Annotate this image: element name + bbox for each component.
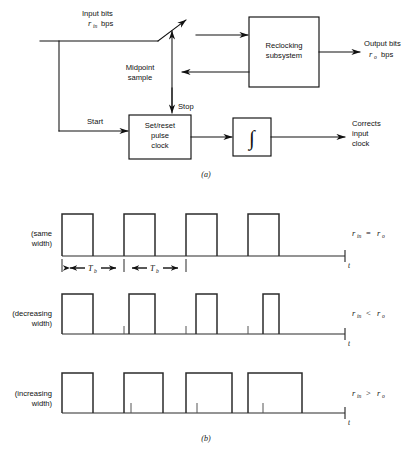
- corrects-input-clock-label: Corrects input clock: [352, 119, 381, 148]
- increasing-width-label-line1: (increasing: [15, 389, 52, 398]
- row1-rel-left-var: r: [352, 229, 356, 238]
- row1-pulse-3: [186, 214, 217, 256]
- row2-rel-right-sub: o: [382, 313, 385, 319]
- row3-rel-left-var: r: [352, 389, 356, 398]
- block-diagram-a: Input bits r in bps Start Reclocking sub…: [40, 9, 401, 179]
- row2-pulse-4: [263, 294, 279, 334]
- tb-label-2-sub: b: [156, 268, 159, 274]
- output-rate-unit: bps: [381, 50, 393, 59]
- row3-rel-op: >: [366, 389, 371, 398]
- row2-pulse-2: [129, 294, 155, 334]
- waveform-row-decreasing-width: (decreasing width) t r in < r o: [12, 294, 385, 348]
- row1-rel-left-sub: in: [357, 233, 362, 239]
- tb-label-1-sub: b: [94, 268, 97, 274]
- row3-pulse-1: [62, 373, 93, 413]
- reclocking-subsystem-line1: Reclocking: [265, 41, 302, 50]
- technical-figure: Input bits r in bps Start Reclocking sub…: [0, 0, 413, 450]
- row3-rel-right-sub: o: [382, 393, 385, 399]
- row3-pulse-4: [248, 373, 302, 413]
- midpoint-sample-label: Midpoint sample: [126, 63, 156, 82]
- row1-dimension-arrows: T b T b: [62, 259, 186, 274]
- row3-rel-left-sub: in: [357, 393, 362, 399]
- corrects-line1: Corrects: [352, 119, 381, 128]
- row1-rel-right-var: r: [377, 229, 381, 238]
- row2-pulse-1: [62, 294, 93, 334]
- same-width-label-line2: width): [31, 239, 53, 248]
- input-bits-label: Input bits r in bps: [82, 9, 113, 29]
- input-bits-label-line1: Input bits: [82, 9, 113, 18]
- row1-time-axis-label: t: [348, 261, 351, 270]
- corrects-line2: input: [352, 129, 369, 138]
- midpoint-sample-line2: sample: [128, 73, 152, 82]
- corrects-line3: clock: [352, 139, 370, 148]
- start-label: Start: [87, 117, 104, 126]
- row3-pulse-2: [124, 373, 163, 413]
- row1-pulse-1: [62, 214, 93, 256]
- row1-rel-right-sub: o: [382, 233, 385, 239]
- row2-rel-op: <: [366, 309, 371, 318]
- input-rate-unit: bps: [101, 19, 113, 28]
- output-bits-label: Output bits r o bps: [364, 39, 401, 60]
- row3-relation: r in > r o: [352, 389, 385, 399]
- output-bits-label-line1: Output bits: [364, 39, 401, 48]
- integral-icon: ∫: [247, 126, 256, 151]
- caption-b: (b): [201, 434, 211, 443]
- row1-pulse-2: [124, 214, 155, 256]
- row3-rel-right-var: r: [377, 389, 381, 398]
- row2-pulse-3: [196, 294, 217, 334]
- waveforms-b: (same width) t T: [12, 214, 385, 443]
- row1-rel-op: =: [366, 229, 371, 238]
- row1-pulse-4: [248, 214, 279, 256]
- set-reset-line1: Set/reset: [145, 121, 176, 130]
- same-width-label-line1: (same: [31, 229, 52, 238]
- row3-pulse-3: [186, 373, 232, 413]
- row1-relation: r in = r o: [352, 229, 385, 239]
- row2-rel-right-var: r: [377, 309, 381, 318]
- row2-relation: r in < r o: [352, 309, 385, 319]
- input-rate-var: r: [88, 19, 92, 28]
- set-reset-line3: clock: [151, 141, 169, 150]
- decreasing-width-label-line1: (decreasing: [12, 309, 52, 318]
- caption-a: (a): [201, 170, 211, 179]
- row2-rel-left-var: r: [352, 309, 356, 318]
- waveform-row-same-width: (same width) t T: [31, 214, 385, 274]
- output-rate-sub: o: [374, 54, 377, 60]
- set-reset-line2: pulse: [151, 131, 169, 140]
- output-rate-var: r: [369, 50, 373, 59]
- waveform-row-increasing-width: (increasing width) t r in > r o: [15, 373, 385, 427]
- midpoint-sample-line1: Midpoint: [126, 63, 156, 72]
- figure-container: Input bits r in bps Start Reclocking sub…: [0, 0, 413, 450]
- reclocking-subsystem-line2: subsystem: [266, 51, 302, 60]
- row2-time-axis-label: t: [348, 339, 351, 348]
- increasing-width-label-line2: width): [31, 399, 53, 408]
- decreasing-width-label-line2: width): [31, 319, 53, 328]
- stop-label: Stop: [178, 102, 194, 111]
- row3-time-axis-label: t: [348, 418, 351, 427]
- input-rate-sub: in: [93, 23, 98, 29]
- row2-rel-left-sub: in: [357, 313, 362, 319]
